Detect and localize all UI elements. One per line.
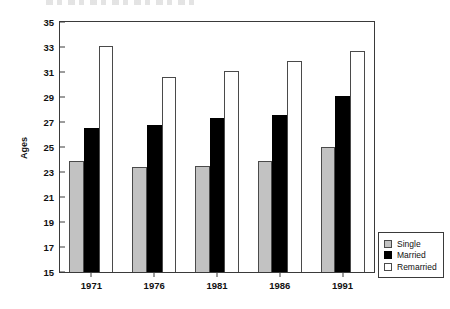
y-axis-tick-label: 33 — [43, 42, 60, 53]
bar-set — [195, 22, 239, 272]
plot-inner: 3533312927252321191715 19711976198119861… — [60, 22, 374, 272]
chart-canvas: Ages 3533312927252321191715 197119761981… — [0, 0, 450, 309]
legend-item-remarried[interactable]: Remarried — [384, 262, 437, 272]
bar-set — [69, 22, 113, 272]
bar-group: 1986 — [248, 22, 311, 272]
bar-remarried[interactable] — [350, 51, 365, 272]
x-axis-tick-mark — [279, 272, 280, 277]
chart-legend: SingleMarriedRemarried — [378, 232, 444, 278]
bar-married[interactable] — [147, 125, 162, 273]
x-axis-tick-mark — [154, 272, 155, 277]
y-axis-tick-label: 15 — [43, 267, 60, 278]
legend-swatch-single — [384, 240, 392, 248]
bar-group: 1971 — [60, 22, 123, 272]
y-axis-tick-label: 31 — [43, 67, 60, 78]
bar-single[interactable] — [195, 166, 210, 272]
bar-remarried[interactable] — [224, 71, 239, 272]
x-axis-tick-label: 1981 — [206, 280, 227, 291]
bar-single[interactable] — [321, 147, 336, 272]
y-axis-tick-label: 35 — [43, 17, 60, 28]
bar-married[interactable] — [84, 128, 99, 272]
bar-group: 1976 — [123, 22, 186, 272]
bar-set — [321, 22, 365, 272]
clipped-title-remnant — [46, 0, 196, 5]
bar-group: 1981 — [186, 22, 249, 272]
y-axis-tick-label: 29 — [43, 92, 60, 103]
bar-remarried[interactable] — [99, 46, 114, 272]
bar-set — [132, 22, 176, 272]
y-axis-tick-label: 27 — [43, 117, 60, 128]
x-axis-tick-mark — [216, 272, 217, 277]
y-axis-tick-label: 17 — [43, 242, 60, 253]
legend-label: Married — [397, 250, 426, 260]
legend-label: Single — [397, 239, 421, 249]
bar-single[interactable] — [69, 161, 84, 272]
bar-remarried[interactable] — [162, 77, 177, 272]
legend-swatch-married — [384, 251, 392, 259]
x-axis-tick-mark — [91, 272, 92, 277]
plot-area: 3533312927252321191715 19711976198119861… — [59, 21, 375, 273]
legend-swatch-remarried — [384, 263, 392, 271]
x-axis-tick-label: 1991 — [332, 280, 353, 291]
y-axis-title: Ages — [19, 137, 29, 159]
y-axis-tick-label: 23 — [43, 167, 60, 178]
legend-item-married[interactable]: Married — [384, 250, 437, 260]
bar-married[interactable] — [210, 118, 225, 272]
x-axis-tick-label: 1986 — [269, 280, 290, 291]
bar-single[interactable] — [258, 161, 273, 272]
x-axis-tick-mark — [342, 272, 343, 277]
x-axis-tick-label: 1971 — [81, 280, 102, 291]
bar-married[interactable] — [335, 96, 350, 272]
x-axis-tick-label: 1976 — [144, 280, 165, 291]
legend-label: Remarried — [397, 262, 437, 272]
bar-groups: 19711976198119861991 — [60, 22, 374, 272]
bar-married[interactable] — [272, 115, 287, 273]
bar-remarried[interactable] — [287, 61, 302, 272]
y-axis-tick-label: 19 — [43, 217, 60, 228]
legend-item-single[interactable]: Single — [384, 239, 437, 249]
bar-group: 1991 — [311, 22, 374, 272]
bar-single[interactable] — [132, 167, 147, 272]
bar-set — [258, 22, 302, 272]
y-axis-tick-label: 25 — [43, 142, 60, 153]
y-axis-tick-label: 21 — [43, 192, 60, 203]
